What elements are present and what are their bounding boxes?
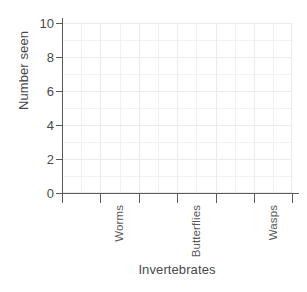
x-category-label-wasps: Wasps <box>267 205 279 240</box>
y-tick-mark-2 <box>56 159 63 160</box>
y-tick-mark-10 <box>56 23 63 24</box>
y-tick-label-0: 0 <box>34 187 54 200</box>
x-tick-mark-2 <box>139 194 140 203</box>
x-tick-mark-1 <box>100 194 101 203</box>
y-tick-label-6: 6 <box>34 85 54 98</box>
y-tick-mark-4 <box>56 125 63 126</box>
y-tick-mark-6 <box>56 91 63 92</box>
x-category-label-butterflies: Butterflies <box>190 205 202 257</box>
x-tick-mark-6 <box>292 194 293 203</box>
y-axis-tick-labels: 10 8 6 4 2 0 <box>34 0 54 292</box>
y-axis-spine <box>62 18 63 193</box>
x-tick-mark-0 <box>62 194 63 203</box>
y-tick-label-8: 8 <box>34 51 54 64</box>
chart-container: Number seen 10 8 6 4 2 0 <box>0 0 307 292</box>
y-axis-title: Number seen <box>16 1 31 141</box>
x-axis-spine <box>62 193 299 194</box>
x-axis-title: Invertebrates <box>62 262 292 277</box>
y-tick-label-2: 2 <box>34 153 54 166</box>
y-tick-label-4: 4 <box>34 119 54 132</box>
x-tick-mark-5 <box>254 194 255 203</box>
y-tick-label-10: 10 <box>34 17 54 30</box>
plot-area <box>62 23 292 193</box>
grid-major-lines <box>62 23 292 193</box>
x-tick-mark-4 <box>216 194 217 203</box>
x-tick-mark-3 <box>177 194 178 203</box>
y-tick-mark-8 <box>56 57 63 58</box>
x-category-label-worms: Worms <box>113 205 125 242</box>
